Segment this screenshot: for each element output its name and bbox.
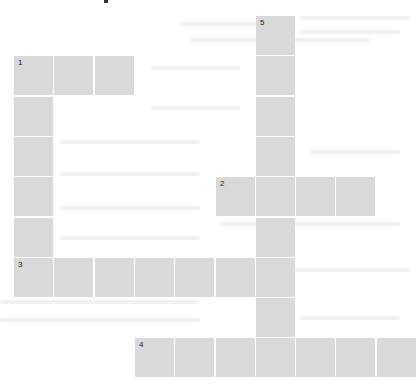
crossword-cell[interactable] — [256, 218, 295, 257]
crossword-cell[interactable] — [336, 177, 375, 216]
ghost-line — [310, 150, 400, 154]
crossword-cell[interactable] — [95, 56, 134, 95]
ghost-line — [60, 206, 200, 210]
crossword-cell[interactable] — [256, 56, 295, 95]
crossword-cell[interactable] — [377, 338, 416, 377]
ghost-line — [300, 16, 410, 20]
ghost-line — [60, 236, 200, 240]
crossword-cell[interactable] — [54, 56, 93, 95]
crossword-cell[interactable]: 3 — [14, 258, 53, 297]
crossword-cell[interactable] — [216, 338, 255, 377]
crossword-cell[interactable] — [135, 258, 174, 297]
ghost-line — [0, 318, 200, 322]
ghost-line — [290, 268, 410, 272]
ghost-line — [60, 140, 200, 144]
crossword-cell[interactable] — [256, 97, 295, 136]
crossword-cell[interactable] — [296, 177, 335, 216]
crossword-cell[interactable] — [175, 258, 214, 297]
crossword-cell[interactable] — [256, 338, 295, 377]
crossword-cell[interactable] — [256, 258, 295, 297]
ghost-line — [150, 66, 240, 70]
clue-number: 2 — [220, 179, 224, 188]
crossword-cell[interactable] — [54, 258, 93, 297]
ghost-line — [0, 300, 200, 304]
crossword-cell[interactable] — [256, 298, 295, 337]
crossword-cell[interactable]: 5 — [256, 16, 295, 55]
crossword-cell[interactable]: 2 — [216, 177, 255, 216]
crossword-cell[interactable] — [216, 258, 255, 297]
crossword-cell[interactable]: 1 — [14, 56, 53, 95]
crossword-cell[interactable] — [296, 338, 335, 377]
ghost-line — [150, 106, 240, 110]
ghost-line — [300, 30, 400, 34]
crossword-cell[interactable] — [256, 137, 295, 176]
clue-number: 5 — [260, 18, 264, 27]
ghost-line — [300, 316, 400, 320]
crossword-cell[interactable] — [95, 258, 134, 297]
crossword-cell[interactable] — [14, 218, 53, 257]
clue-number: 4 — [139, 340, 143, 349]
clue-number: 1 — [18, 58, 22, 67]
clue-number: 3 — [18, 260, 22, 269]
crossword-cell[interactable] — [14, 137, 53, 176]
crossword-cell[interactable] — [336, 338, 375, 377]
crossword-cell[interactable] — [14, 97, 53, 136]
crossword-cell[interactable] — [256, 177, 295, 216]
ghost-line — [60, 172, 200, 176]
crossword-cell[interactable] — [175, 338, 214, 377]
ghost-line — [220, 222, 400, 226]
crossword-cell[interactable] — [14, 177, 53, 216]
ghost-mark — [104, 0, 108, 3]
crossword-cell[interactable]: 4 — [135, 338, 174, 377]
